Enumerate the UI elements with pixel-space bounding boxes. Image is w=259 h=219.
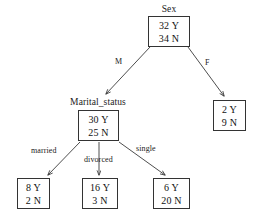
node-leaf-single-no-count: 20 N	[161, 194, 182, 207]
node-root-box: 32 Y 34 N	[148, 16, 190, 47]
edge-label-divorced: divorced	[84, 155, 113, 164]
node-root-yes-count: 32 Y	[159, 19, 179, 32]
node-leaf-married-yes-count: 8 Y	[26, 181, 41, 194]
node-leaf-divorced-no-count: 3 N	[92, 194, 107, 207]
decision-tree-diagram: Sex 32 Y 34 N M F 2 Y 9 N Marital_status…	[0, 0, 259, 219]
node-leaf-female-yes-count: 2 Y	[222, 103, 237, 116]
edge-label-male: M	[115, 57, 122, 66]
node-leaf-single-box: 6 Y 20 N	[153, 178, 190, 209]
edge-root-to-female-leaf	[188, 47, 224, 96]
node-root-title: Sex	[148, 4, 190, 14]
node-marital-box: 30 Y 25 N	[78, 110, 119, 141]
node-marital-yes-count: 30 Y	[88, 113, 108, 126]
edge-label-married: married	[31, 146, 57, 155]
node-marital-title: Marital_status	[58, 97, 138, 107]
node-leaf-female-box: 2 Y 9 N	[213, 100, 246, 131]
node-leaf-divorced-box: 16 Y 3 N	[82, 178, 118, 209]
edge-label-single: single	[136, 144, 156, 153]
edge-root-to-marital	[106, 47, 150, 94]
node-leaf-female-no-count: 9 N	[222, 116, 237, 129]
node-marital-no-count: 25 N	[88, 126, 109, 139]
node-leaf-single-yes-count: 6 Y	[164, 181, 179, 194]
node-leaf-married-box: 8 Y 2 N	[17, 178, 50, 209]
node-leaf-married-no-count: 2 N	[26, 194, 41, 207]
node-root-no-count: 34 N	[159, 32, 180, 45]
edge-label-female: F	[205, 58, 210, 67]
node-leaf-divorced-yes-count: 16 Y	[90, 181, 110, 194]
